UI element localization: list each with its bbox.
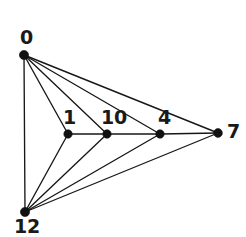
graph-edge [24, 55, 25, 212]
graph-edge [25, 134, 160, 212]
graph-node-label-10: 10 [101, 108, 127, 127]
graph-edge [24, 55, 160, 134]
edge-layer [24, 55, 218, 212]
graph-figure: 01104712 [0, 0, 246, 237]
graph-node-label-0: 0 [20, 28, 33, 47]
graph-node-0[interactable] [19, 50, 28, 59]
graph-node-label-4: 4 [158, 108, 171, 127]
graph-node-4[interactable] [156, 130, 164, 138]
graph-node-label-12: 12 [14, 217, 40, 236]
graph-edge [25, 133, 218, 212]
graph-node-7[interactable] [214, 129, 223, 138]
graph-node-label-7: 7 [227, 122, 240, 141]
graph-node-1[interactable] [64, 130, 72, 138]
graph-node-10[interactable] [103, 130, 111, 138]
graph-node-label-1: 1 [63, 108, 76, 127]
graph-edge [24, 55, 68, 134]
graph-edge [160, 133, 218, 134]
graph-edge [25, 134, 107, 212]
